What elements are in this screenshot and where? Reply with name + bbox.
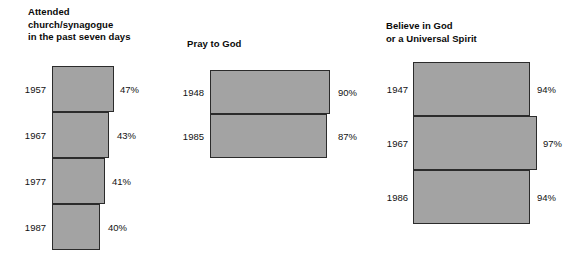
value-label: 97% (543, 139, 562, 149)
bar (210, 70, 330, 114)
bar (52, 158, 105, 204)
value-label: 94% (537, 193, 556, 203)
category-label: 1985 (164, 132, 204, 142)
value-label: 94% (537, 85, 556, 95)
panel-title: Believe in God or a Universal Spirit (386, 20, 571, 45)
bar (52, 204, 100, 250)
chart-panel-attended-church: Attended church/synagogue in the past se… (0, 0, 190, 260)
bar (52, 66, 114, 112)
category-label: 1987 (4, 223, 46, 233)
value-label: 90% (338, 88, 357, 98)
category-label: 1948 (164, 88, 204, 98)
bar (210, 114, 327, 158)
chart-panel-believe-in-god: Believe in God or a Universal Spirit 194… (380, 0, 584, 260)
panel-title: Pray to God (187, 38, 357, 51)
category-label: 1977 (4, 177, 46, 187)
category-label: 1957 (4, 85, 46, 95)
panel-title: Attended church/synagogue in the past se… (28, 6, 183, 44)
category-label: 1986 (368, 193, 408, 203)
value-label: 47% (120, 85, 139, 95)
category-label: 1947 (368, 85, 408, 95)
category-label: 1967 (368, 139, 408, 149)
value-label: 40% (108, 223, 127, 233)
bar (413, 116, 537, 170)
value-label: 41% (112, 177, 131, 187)
category-label: 1967 (4, 131, 46, 141)
chart-panel-pray-to-god: Pray to God 1948 90% 1985 87% (176, 0, 376, 260)
value-label: 43% (117, 131, 136, 141)
bar (413, 62, 530, 116)
bar (52, 112, 109, 158)
value-label: 87% (338, 132, 357, 142)
bar (413, 170, 530, 224)
